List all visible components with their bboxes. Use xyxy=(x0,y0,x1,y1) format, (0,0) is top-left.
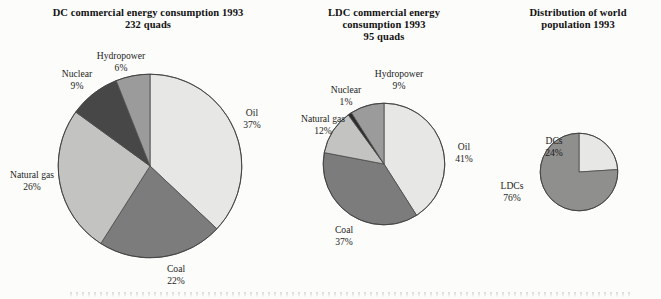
pie-label-natural-gas-dc: Natural gas 26% xyxy=(1,169,63,192)
slice-label-value: 76% xyxy=(486,192,538,204)
pie-label-coal-ldc: Coal 37% xyxy=(314,224,374,247)
slice-label-name: Coal xyxy=(314,224,374,236)
chart-title-line: DC commercial energy consumption 1993 xyxy=(53,7,244,18)
slice-label-value: 12% xyxy=(291,125,355,137)
slice-label-value: 9% xyxy=(40,80,114,92)
slice-label-name: Hydropower xyxy=(357,68,441,80)
slice-label-value: 37% xyxy=(314,236,374,248)
pie-slice xyxy=(579,133,618,172)
pie-chart-dc-energy xyxy=(57,73,243,259)
slice-label-value: 1% xyxy=(311,96,381,108)
slice-label-name: DCs xyxy=(530,135,578,147)
slice-label-name: Natural gas xyxy=(1,169,63,181)
slice-label-value: 22% xyxy=(146,275,206,287)
slice-label-value: 37% xyxy=(228,119,276,131)
pie-label-oil-ldc: Oil 41% xyxy=(440,141,488,164)
pie-label-natural-gas-ldc: Natural gas 12% xyxy=(291,113,355,136)
chart-title-world-population: Distribution of world population 1993 xyxy=(498,7,658,31)
slice-label-value: 41% xyxy=(440,153,488,165)
slice-label-name: Natural gas xyxy=(291,113,355,125)
slice-label-name: LDCs xyxy=(486,180,538,192)
chart-title-dc-energy: DC commercial energy consumption 1993 23… xyxy=(10,7,286,31)
chart-title-line: LDC commercial energy xyxy=(328,7,440,18)
chart-title-line: Distribution of world xyxy=(529,7,626,18)
slice-label-value: 26% xyxy=(1,181,63,193)
slice-label-name: Nuclear xyxy=(40,68,114,80)
slice-label-name: Oil xyxy=(228,107,276,119)
chart-title-line: population 1993 xyxy=(541,19,615,30)
chart-title-ldc-energy: LDC commercial energy consumption 1993 9… xyxy=(300,7,468,43)
pie-label-oil-dc: Oil 37% xyxy=(228,107,276,130)
slice-label-name: Coal xyxy=(146,263,206,275)
pie-label-coal-dc: Coal 22% xyxy=(146,263,206,286)
slice-label-name: Oil xyxy=(440,141,488,153)
chart-title-line: consumption 1993 xyxy=(343,19,426,30)
pie-label-nuclear-dc: Nuclear 9% xyxy=(40,68,114,91)
pie-label-nuclear-ldc: Nuclear 1% xyxy=(311,84,381,107)
chart-title-line: 95 quads xyxy=(364,31,405,42)
pie-label-ldcs: LDCs 76% xyxy=(486,180,538,203)
slice-label-name: Nuclear xyxy=(311,84,381,96)
chart-title-line: 232 quads xyxy=(125,19,171,30)
figure-caption-clipped xyxy=(70,292,630,299)
pie-label-dcs: DCs 24% xyxy=(530,135,578,158)
slice-label-value: 24% xyxy=(530,147,578,159)
slice-label-name: Hydropower xyxy=(79,50,163,62)
